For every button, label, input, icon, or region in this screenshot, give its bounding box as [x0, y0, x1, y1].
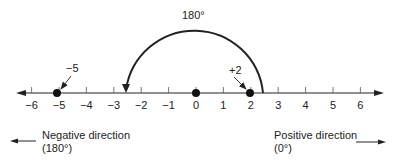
right-arrowhead-icon	[374, 90, 384, 96]
tick-label: −3	[108, 99, 121, 111]
tick-label: 2	[248, 99, 254, 111]
left-arrow-icon	[10, 139, 18, 144]
tick-label: 3	[275, 99, 281, 111]
point-minus-5	[53, 89, 61, 97]
tick-label: 6	[357, 99, 363, 111]
negative-direction-label: Negative direction	[42, 129, 130, 141]
tick-label: −1	[162, 99, 175, 111]
arc-arrowhead-icon	[122, 84, 130, 93]
tick-label: 1	[220, 99, 226, 111]
positive-direction-label: Positive direction	[274, 129, 357, 141]
tick-label: 4	[303, 99, 309, 111]
arc-angle-label: 180°	[182, 9, 205, 21]
tick-label: −5	[53, 99, 66, 111]
negative-direction-angle: (180°)	[42, 142, 72, 154]
tick-label: 0	[193, 99, 199, 111]
leader-plus-2	[234, 77, 246, 89]
point-plus-2	[246, 89, 254, 97]
rotation-arc	[126, 31, 263, 93]
tick-label: 5	[330, 99, 336, 111]
tick-label: −6	[25, 99, 38, 111]
point-zero	[192, 89, 200, 97]
label-minus-5: −5	[66, 62, 79, 74]
label-plus-2: +2	[229, 64, 242, 76]
positive-direction-angle: (0°)	[274, 142, 292, 154]
left-arrowhead-icon	[16, 90, 26, 96]
leader-minus-5	[61, 76, 71, 89]
number-line-diagram: −6−5−4−3−2−10123456 −5 +2 180° Negative …	[0, 0, 396, 164]
right-arrow-icon	[378, 140, 386, 145]
tick-label: −4	[80, 99, 93, 111]
tick-label: −2	[135, 99, 148, 111]
